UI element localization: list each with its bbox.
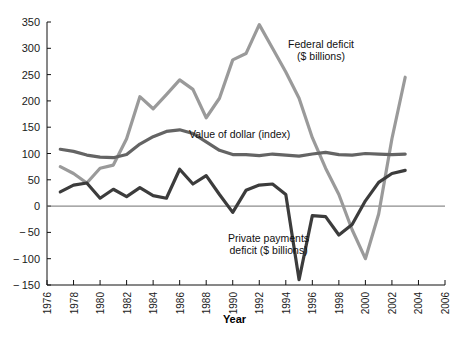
x-tick-label: 1986 bbox=[175, 292, 186, 315]
y-tick-label: 0 bbox=[34, 200, 40, 212]
private-payments-label-line2: deficit ($ billions) bbox=[228, 244, 309, 256]
federal-deficit-label-line1: Federal deficit bbox=[288, 38, 354, 50]
x-tick-label: 2000 bbox=[360, 292, 371, 315]
private-payments-label: Private payments deficit ($ billions) bbox=[228, 232, 309, 256]
y-tick-label: 300 bbox=[22, 42, 40, 54]
x-tick-label: 1994 bbox=[281, 292, 292, 315]
x-tick-label: 2002 bbox=[387, 292, 398, 315]
y-tick-label: 200 bbox=[22, 95, 40, 107]
private-payments-label-line1: Private payments bbox=[228, 232, 309, 244]
x-axis-title: Year bbox=[0, 313, 469, 325]
x-tick-label: 1990 bbox=[228, 292, 239, 315]
x-tick-label: 1978 bbox=[69, 292, 80, 315]
x-tick-label: 1980 bbox=[95, 292, 106, 315]
line-chart-plot: 350300250200150100500− 50− 100− 150 1976… bbox=[0, 0, 469, 340]
x-tick-label: 1976 bbox=[42, 292, 53, 315]
y-tick-label: 350 bbox=[22, 16, 40, 28]
x-tick-label: 1984 bbox=[148, 292, 159, 315]
y-tick-label: 250 bbox=[22, 69, 40, 81]
x-tick-label: 1998 bbox=[334, 292, 345, 315]
value-of-dollar-label: Value of dollar (index) bbox=[189, 128, 290, 140]
y-axis: 350300250200150100500− 50− 100− 150 bbox=[13, 16, 51, 291]
series-line-2 bbox=[60, 169, 405, 279]
x-tick-label: 1982 bbox=[122, 292, 133, 315]
x-tick-label: 2004 bbox=[413, 292, 424, 315]
x-axis: 1976197819801982198419861988199019921994… bbox=[42, 280, 451, 314]
x-tick-label: 1996 bbox=[307, 292, 318, 315]
y-tick-label: − 100 bbox=[13, 253, 40, 265]
y-tick-label: − 150 bbox=[13, 279, 40, 291]
x-tick-label: 2006 bbox=[440, 292, 451, 315]
y-tick-label: 100 bbox=[22, 148, 40, 160]
y-tick-label: 50 bbox=[28, 174, 40, 186]
federal-deficit-label: Federal deficit ($ billions) bbox=[288, 38, 354, 62]
federal-deficit-label-line2: ($ billions) bbox=[288, 50, 354, 62]
value-of-dollar-label-line1: Value of dollar (index) bbox=[189, 128, 290, 140]
x-tick-label: 1992 bbox=[254, 292, 265, 315]
y-tick-label: − 50 bbox=[19, 226, 40, 238]
chart-container: 350300250200150100500− 50− 100− 150 1976… bbox=[0, 0, 469, 340]
y-tick-label: 150 bbox=[22, 121, 40, 133]
x-tick-label: 1988 bbox=[201, 292, 212, 315]
